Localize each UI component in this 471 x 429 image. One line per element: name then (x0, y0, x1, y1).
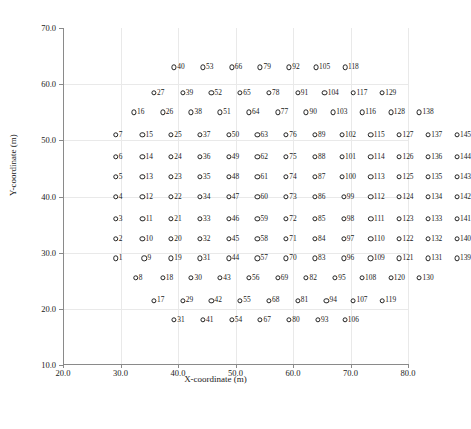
data-point-label: 137 (431, 131, 442, 138)
circle-marker-icon (229, 317, 234, 322)
data-point-label: 87 (318, 173, 325, 180)
data-point: 87 (312, 173, 325, 180)
data-point-label: 68 (272, 297, 279, 304)
data-point: 108 (359, 274, 376, 281)
data-point: 121 (397, 255, 414, 262)
circle-marker-icon (275, 110, 280, 115)
circle-marker-icon (140, 174, 145, 179)
data-point-label: 11 (146, 215, 153, 222)
data-point: 26 (160, 109, 173, 116)
data-point-label: 53 (206, 64, 213, 71)
gridline-horizontal (63, 84, 408, 85)
data-point: 57 (255, 255, 268, 262)
circle-marker-icon (342, 317, 347, 322)
circle-marker-icon (341, 256, 346, 261)
data-point: 17 (151, 297, 164, 304)
circle-marker-icon (113, 236, 118, 241)
circle-marker-icon (341, 216, 346, 221)
circle-marker-icon (312, 216, 317, 221)
circle-marker-icon (286, 65, 291, 70)
circle-marker-icon (368, 256, 373, 261)
y-axis-line (63, 28, 64, 365)
data-point: 8 (133, 274, 142, 281)
data-point-label: 108 (365, 274, 376, 281)
data-point: 103 (331, 109, 348, 116)
data-point: 123 (397, 215, 414, 222)
circle-marker-icon (189, 110, 194, 115)
circle-marker-icon (425, 216, 430, 221)
circle-marker-icon (454, 236, 459, 241)
data-point: 109 (368, 255, 385, 262)
data-point: 131 (425, 255, 442, 262)
data-point: 89 (312, 131, 325, 138)
data-point-label: 113 (374, 173, 385, 180)
circle-marker-icon (368, 174, 373, 179)
circle-marker-icon (226, 216, 231, 221)
data-point-label: 51 (223, 109, 230, 116)
circle-marker-icon (397, 132, 402, 137)
data-point: 88 (312, 153, 325, 160)
data-point: 19 (169, 255, 182, 262)
data-point: 107 (351, 297, 368, 304)
circle-marker-icon (425, 155, 430, 160)
data-point-label: 105 (319, 64, 330, 71)
data-point: 64 (246, 109, 259, 116)
circle-marker-icon (312, 132, 317, 137)
data-point: 122 (397, 235, 414, 242)
data-point: 67 (258, 316, 271, 323)
circle-marker-icon (255, 174, 260, 179)
circle-marker-icon (397, 174, 402, 179)
data-point-label: 81 (301, 297, 308, 304)
circle-marker-icon (197, 216, 202, 221)
data-point-label: 134 (431, 193, 442, 200)
circle-marker-icon (339, 155, 344, 160)
data-point-label: 17 (157, 297, 164, 304)
data-point: 13 (140, 173, 153, 180)
circle-marker-icon (258, 65, 263, 70)
data-point: 97 (341, 235, 354, 242)
circle-marker-icon (342, 65, 347, 70)
circle-marker-icon (359, 275, 364, 280)
circle-marker-icon (397, 216, 402, 221)
circle-marker-icon (315, 317, 320, 322)
plot-area: 4053667992105118273952657891104117129162… (63, 28, 408, 365)
gridline-horizontal (63, 253, 408, 254)
data-point: 21 (169, 215, 182, 222)
data-point: 102 (339, 131, 356, 138)
circle-marker-icon (425, 174, 430, 179)
data-point-label: 15 (146, 131, 153, 138)
data-point: 113 (368, 173, 385, 180)
data-point-label: 106 (348, 316, 359, 323)
circle-marker-icon (131, 110, 136, 115)
circle-marker-icon (169, 155, 174, 160)
data-point: 18 (160, 274, 173, 281)
circle-marker-icon (169, 256, 174, 261)
data-point: 85 (312, 215, 325, 222)
data-point-label: 115 (374, 131, 385, 138)
data-point-label: 29 (186, 297, 193, 304)
circle-marker-icon (284, 174, 289, 179)
circle-marker-icon (388, 275, 393, 280)
data-point: 23 (169, 173, 182, 180)
circle-marker-icon (197, 132, 202, 137)
circle-marker-icon (169, 216, 174, 221)
circle-marker-icon (255, 236, 260, 241)
circle-marker-icon (169, 174, 174, 179)
data-point-label: 85 (318, 215, 325, 222)
data-point: 93 (315, 316, 328, 323)
data-point: 44 (226, 255, 239, 262)
data-point: 52 (209, 89, 222, 96)
data-point-label: 31 (203, 255, 210, 262)
data-point-label: 63 (261, 131, 268, 138)
data-point: 138 (417, 109, 434, 116)
circle-marker-icon (425, 194, 430, 199)
data-point: 30 (189, 274, 202, 281)
circle-marker-icon (368, 236, 373, 241)
circle-marker-icon (255, 216, 260, 221)
data-point-label: 107 (356, 297, 367, 304)
data-point-label: 117 (357, 89, 368, 96)
data-point: 115 (368, 131, 385, 138)
y-axis-tick-label: 60.0 (41, 79, 56, 89)
circle-marker-icon (113, 132, 118, 137)
data-point: 82 (304, 274, 317, 281)
